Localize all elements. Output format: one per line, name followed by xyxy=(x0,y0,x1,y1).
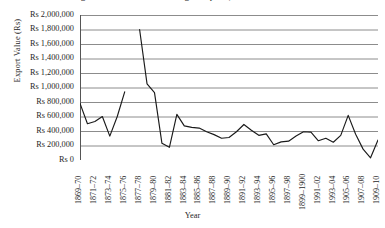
y-axis-tick-label: Rs 600,000 xyxy=(10,112,74,120)
x-axis-tick-label: 1895–96 xyxy=(269,176,277,204)
x-axis-tick-label: 1873–74 xyxy=(105,176,113,204)
x-axis-tick-label: 1875–76 xyxy=(120,176,128,204)
plot-area xyxy=(80,15,378,160)
y-axis-tick-label: Rs 800,000 xyxy=(10,98,74,106)
y-axis-tick-label: Rs 2,000,000 xyxy=(10,11,74,19)
x-axis-tick-label: 1881–82 xyxy=(165,176,173,204)
x-axis-tick-label: 1909–10 xyxy=(373,176,381,204)
series-polyline xyxy=(140,30,378,158)
y-axis-tick-label: Rs 1,600,000 xyxy=(10,40,74,48)
x-axis-tick-label: 1993–04 xyxy=(328,176,336,204)
x-axis-tick-label: 1897–98 xyxy=(284,176,292,204)
chart-title: Figure 2. Value of Indian Ginger Exports… xyxy=(73,0,312,1)
y-axis-tick-label: Rs 1,800,000 xyxy=(10,25,74,33)
x-axis-tick-label: 1891–92 xyxy=(239,176,247,204)
x-axis-title: Year xyxy=(0,211,385,220)
x-axis-tick-label: 1885–86 xyxy=(194,176,202,204)
x-axis-tick-label: 1869–70 xyxy=(75,176,83,204)
x-axis-tick-label: 1893–94 xyxy=(254,176,262,204)
x-axis-tick-label: 1883–84 xyxy=(179,176,187,204)
x-axis-tick-labels: 1869–701871–721873–741875–761877–781879–… xyxy=(80,162,378,216)
y-axis-tick-label: Rs 400,000 xyxy=(10,127,74,135)
x-axis-tick-label: 1871–72 xyxy=(90,176,98,204)
y-axis-tick-label: Rs 1,000,000 xyxy=(10,83,74,91)
y-axis-tick-labels: Rs 2,000,000Rs 1,800,000Rs 1,600,000Rs 1… xyxy=(10,0,74,228)
data-series-line xyxy=(80,30,378,158)
plot-svg xyxy=(80,15,378,160)
x-axis-tick-label: 1905–06 xyxy=(343,176,351,204)
gridlines xyxy=(80,16,378,161)
y-axis-tick-label: Rs 0 xyxy=(10,156,74,164)
x-axis-tick-label: 1879–80 xyxy=(150,176,158,204)
y-axis-tick-label: Rs 200,000 xyxy=(10,141,74,149)
x-axis-tick-label: 1907–08 xyxy=(358,176,366,204)
series-polyline xyxy=(80,92,125,136)
x-axis-tick-label: 1877–78 xyxy=(135,176,143,204)
x-axis-tick-label: 1899–1900 xyxy=(299,174,307,210)
x-axis-tick-label: 1889–90 xyxy=(224,176,232,204)
chart-container: Figure 2. Value of Indian Ginger Exports… xyxy=(0,0,385,228)
y-axis-tick-label: Rs 1,200,000 xyxy=(10,69,74,77)
y-axis-tick-label: Rs 1,400,000 xyxy=(10,54,74,62)
x-axis-tick-label: 1991–02 xyxy=(314,176,322,204)
x-axis-tick-label: 1887–88 xyxy=(209,176,217,204)
